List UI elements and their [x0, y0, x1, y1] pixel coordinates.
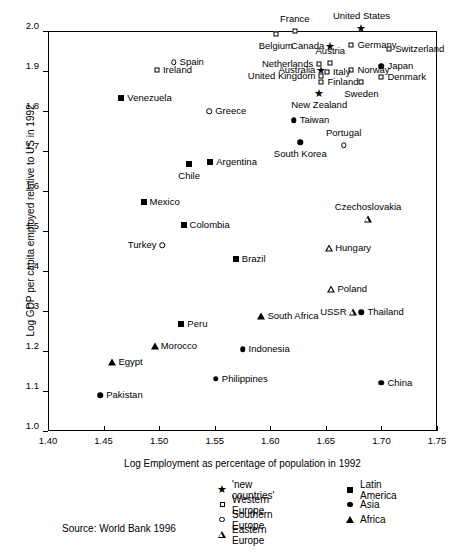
legend-filled-square-icon — [343, 487, 357, 493]
marker-filled-triangle-icon — [151, 343, 159, 350]
y-tick-mark — [43, 111, 48, 112]
marker-open-square-icon — [359, 80, 364, 85]
marker-filled-circle-icon — [298, 139, 304, 145]
point-label: Indonesia — [249, 344, 290, 354]
legend-label: Africa — [360, 514, 386, 525]
marker-star-icon — [314, 90, 325, 97]
x-tick-mark — [159, 426, 160, 431]
legend-column-regions: Latin AmericaAsiaAfrica — [343, 482, 397, 527]
point-label: Portugal — [326, 128, 361, 138]
source-note: Source: World Bank 1996 — [62, 523, 176, 534]
x-tick-mark — [104, 426, 105, 431]
point-label: Belgium — [259, 41, 293, 51]
marker-filled-square-icon — [118, 95, 124, 101]
plot-area — [48, 31, 437, 431]
point-label: Ireland — [163, 65, 192, 75]
y-tick-mark — [43, 151, 48, 152]
point-label: Colombia — [190, 220, 230, 230]
x-tick-label: 1.60 — [261, 435, 280, 446]
x-tick-label: 1.55 — [205, 435, 224, 446]
marker-open-square-icon — [387, 47, 392, 52]
marker-filled-circle-icon — [213, 376, 219, 382]
legend-open-triangle-icon — [215, 531, 229, 538]
point-label: Philippines — [222, 374, 268, 384]
marker-filled-triangle-icon — [346, 516, 354, 523]
point-label: United States — [333, 11, 390, 21]
marker-open-square-icon — [273, 31, 278, 36]
x-tick-mark — [326, 426, 327, 431]
marker-open-circle-icon — [219, 517, 225, 523]
marker-open-square-icon — [220, 502, 225, 507]
marker-open-triangle-icon — [349, 308, 357, 315]
marker-filled-circle-icon — [240, 346, 246, 352]
marker-filled-circle-icon — [97, 392, 103, 398]
point-label: Denmark — [387, 72, 426, 82]
y-tick-mark — [43, 31, 48, 32]
point-label: South Africa — [267, 311, 318, 321]
x-tick-mark — [270, 426, 271, 431]
marker-filled-square-icon — [207, 159, 213, 165]
marker-open-square-icon — [154, 67, 159, 72]
marker-open-triangle-icon — [325, 244, 333, 251]
point-label: Mexico — [150, 197, 180, 207]
x-tick-label: 1.65 — [317, 435, 336, 446]
legend-label: Asia — [360, 499, 379, 510]
marker-open-triangle-icon — [364, 216, 372, 223]
y-tick-mark — [43, 271, 48, 272]
x-tick-mark — [48, 426, 49, 431]
point-label: Morocco — [161, 341, 197, 351]
y-tick-mark — [43, 71, 48, 72]
marker-filled-circle-icon — [359, 309, 365, 315]
marker-star-icon — [356, 25, 367, 32]
marker-filled-square-icon — [347, 487, 353, 493]
legend-label: Latin America — [360, 479, 397, 501]
marker-filled-triangle-icon — [257, 312, 265, 319]
point-label: Greece — [215, 106, 246, 116]
point-label: South Korea — [274, 149, 327, 159]
marker-open-circle-icon — [206, 108, 212, 114]
legend-open-circle-icon — [215, 517, 229, 523]
marker-open-circle-icon — [160, 242, 166, 248]
marker-filled-triangle-icon — [108, 358, 116, 365]
legend-filled-circle-icon — [343, 502, 357, 508]
marker-open-square-icon — [349, 43, 354, 48]
marker-star-icon — [217, 486, 228, 493]
x-tick-mark — [381, 426, 382, 431]
marker-filled-circle-icon — [291, 117, 297, 123]
legend-item[interactable]: Africa — [343, 512, 397, 527]
x-tick-label: 1.75 — [428, 435, 447, 446]
point-label: Pakistan — [106, 390, 142, 400]
point-label: Argentina — [216, 157, 257, 167]
marker-filled-square-icon — [181, 222, 187, 228]
point-label: Sweden — [344, 89, 378, 99]
marker-filled-square-icon — [178, 321, 184, 327]
point-label: United Kingdom — [248, 71, 316, 81]
x-tick-mark — [437, 426, 438, 431]
point-label: France — [280, 14, 310, 24]
marker-filled-circle-icon — [347, 502, 353, 508]
y-tick-mark — [43, 231, 48, 232]
x-tick-label: 1.45 — [94, 435, 113, 446]
point-label: Norway — [357, 65, 389, 75]
point-label: Turkey — [128, 240, 157, 250]
x-tick-label: 1.50 — [150, 435, 169, 446]
marker-filled-square-icon — [186, 161, 192, 167]
legend-item[interactable]: Latin America — [343, 482, 397, 497]
x-axis-title: Log Employment as percentage of populati… — [48, 458, 437, 469]
marker-open-triangle-icon — [218, 531, 226, 538]
legend-open-square-icon — [215, 502, 229, 507]
point-label: Brazil — [242, 254, 266, 264]
point-label: Japan — [387, 61, 413, 71]
point-label: Austria — [316, 46, 346, 56]
point-label: Taiwan — [300, 115, 330, 125]
legend-item[interactable]: Eastern Europe — [215, 527, 274, 542]
marker-open-square-icon — [328, 61, 333, 66]
legend-label: Eastern Europe — [232, 524, 274, 546]
y-tick-mark — [43, 191, 48, 192]
marker-open-square-icon — [324, 69, 329, 74]
point-label: China — [387, 378, 412, 388]
marker-filled-square-icon — [141, 199, 147, 205]
point-label: Czechoslovakia — [335, 202, 402, 212]
point-label: Finland — [327, 77, 358, 87]
x-tick-label: 1.40 — [39, 435, 58, 446]
